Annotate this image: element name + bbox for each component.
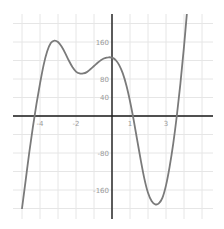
x-tick-label: 3: [164, 120, 168, 128]
y-tick-label: 80: [100, 76, 109, 84]
y-tick-label: -160: [93, 187, 109, 195]
y-tick-label: 160: [96, 39, 109, 47]
y-tick-label: 40: [100, 94, 109, 102]
function-curve: [22, 5, 188, 209]
function-plot: -4-213 1608040-80-160: [0, 0, 224, 229]
x-tick-label: 1: [128, 120, 132, 128]
y-tick-label: -80: [98, 150, 109, 158]
x-tick-label: -2: [73, 120, 80, 128]
x-tick-label: -4: [37, 120, 45, 128]
